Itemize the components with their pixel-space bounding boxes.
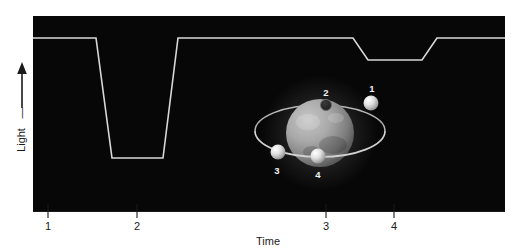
light-curve-figure: 1 2 3 4 1 2 3 4 Time Light — — [0, 0, 513, 249]
x-tick-label-2: 2 — [134, 220, 140, 232]
moon-2-shadow-disc — [321, 100, 332, 111]
figure-svg: 1 2 3 4 1 2 3 4 Time Light — — [0, 0, 513, 249]
moon-3-label: 3 — [274, 165, 279, 176]
moon-4 — [311, 149, 326, 164]
x-tick-label-3: 3 — [323, 220, 329, 232]
moon-4-label: 4 — [315, 169, 321, 180]
x-axis-label: Time — [256, 235, 280, 247]
x-tick-label-1: 1 — [45, 220, 51, 232]
y-axis-label: Light — [15, 128, 27, 152]
y-axis-label-dash: — — [15, 108, 27, 119]
moon-3 — [271, 145, 286, 160]
x-tick-label-4: 4 — [391, 220, 397, 232]
moon-1-label: 1 — [369, 83, 375, 94]
moon-1 — [364, 96, 379, 111]
moon-2-label: 2 — [323, 87, 328, 98]
